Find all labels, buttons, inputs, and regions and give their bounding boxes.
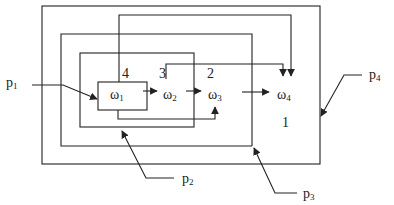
- omega3-label: ω3: [208, 88, 222, 103]
- p4-arrow: [321, 75, 362, 116]
- omega4-label: ω4: [277, 88, 291, 103]
- region-number-4: 4: [122, 67, 129, 81]
- omega1-label: ω1: [110, 88, 124, 103]
- p2-arrow: [122, 131, 174, 178]
- edge-omega1-to-omega3: [118, 107, 215, 119]
- diagram-canvas: [0, 0, 394, 205]
- region-number-2: 2: [207, 67, 214, 81]
- omega2-label: ω2: [163, 88, 177, 103]
- region-2: [61, 34, 252, 146]
- region-outer: [42, 6, 320, 164]
- p2-label: p2: [182, 172, 194, 187]
- p3-label: p3: [303, 187, 315, 202]
- edge-4-to-omega4: [119, 15, 291, 82]
- p4-label: p4: [369, 68, 381, 83]
- p3-arrow: [254, 148, 297, 193]
- edge-3-to-omega4: [166, 64, 283, 79]
- p1-label: p1: [6, 76, 18, 91]
- region-number-3: 3: [159, 67, 166, 81]
- region-number-1: 1: [282, 116, 289, 130]
